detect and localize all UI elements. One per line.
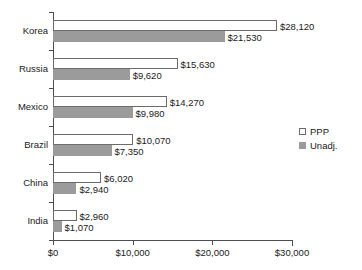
bar-india-unadj[interactable] xyxy=(53,221,62,232)
bar-value-label: $2,940 xyxy=(76,183,108,194)
bar-brazil-unadj[interactable] xyxy=(53,145,112,156)
x-axis-tick xyxy=(133,241,134,245)
bar-india-ppp[interactable] xyxy=(53,210,77,221)
x-axis-tick xyxy=(212,241,213,245)
plot-area: $28,120$21,530$15,630$9,620$14,270$9,980… xyxy=(53,12,292,240)
bar-value-label: $9,980 xyxy=(133,107,165,118)
bar-value-label: $10,070 xyxy=(133,134,170,145)
bar-russia-ppp[interactable] xyxy=(53,58,178,69)
category-label-korea: Korea xyxy=(0,25,48,36)
bar-korea-ppp[interactable] xyxy=(53,20,277,31)
bar-mexico-ppp[interactable] xyxy=(53,96,167,107)
bar-korea-unadj[interactable] xyxy=(53,31,225,42)
bar-value-label: $2,960 xyxy=(77,210,109,221)
x-axis-tick-label: $20,000 xyxy=(195,247,229,258)
chart-legend: PPP Unadj. xyxy=(299,124,337,152)
bar-chart: KoreaRussiaMexicoBrazilChinaIndia $28,12… xyxy=(0,0,362,270)
bar-value-label: $6,020 xyxy=(101,172,133,183)
x-axis-tick-label: $30,000 xyxy=(275,247,309,258)
bar-value-label: $14,270 xyxy=(167,96,204,107)
category-label-russia: Russia xyxy=(0,63,48,74)
x-axis-line xyxy=(53,240,293,241)
category-label-mexico: Mexico xyxy=(0,101,48,112)
bar-russia-unadj[interactable] xyxy=(53,69,130,80)
bar-value-label: $28,120 xyxy=(277,20,314,31)
bar-china-ppp[interactable] xyxy=(53,172,101,183)
legend-swatch-unadj-icon xyxy=(299,142,306,149)
bar-value-label: $7,350 xyxy=(112,145,144,156)
bar-value-label: $9,620 xyxy=(130,69,162,80)
x-axis-tick xyxy=(53,241,54,245)
bar-brazil-ppp[interactable] xyxy=(53,134,133,145)
legend-label-unadj: Unadj. xyxy=(310,140,337,151)
legend-label-ppp: PPP xyxy=(310,126,329,137)
x-axis-tick-label: $0 xyxy=(48,247,59,258)
legend-item-ppp[interactable]: PPP xyxy=(299,124,337,138)
bar-value-label: $21,530 xyxy=(225,31,262,42)
legend-item-unadj[interactable]: Unadj. xyxy=(299,138,337,152)
bar-value-label: $1,070 xyxy=(62,221,94,232)
bar-china-unadj[interactable] xyxy=(53,183,76,194)
legend-swatch-ppp-icon xyxy=(299,128,306,135)
category-label-china: China xyxy=(0,177,48,188)
bar-mexico-unadj[interactable] xyxy=(53,107,133,118)
category-label-india: India xyxy=(0,215,48,226)
category-label-brazil: Brazil xyxy=(0,139,48,150)
x-axis-tick-label: $10,000 xyxy=(115,247,149,258)
bar-value-label: $15,630 xyxy=(178,58,215,69)
x-axis-tick xyxy=(292,241,293,246)
